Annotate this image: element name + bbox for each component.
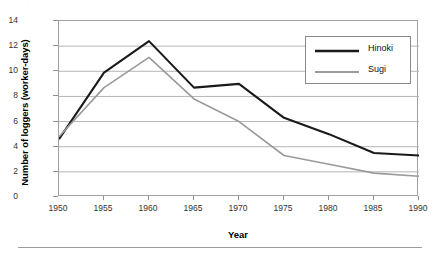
- x-tick-label: 1965: [173, 203, 213, 213]
- legend-swatch-sugi: [315, 70, 359, 74]
- x-tick-mark: [148, 196, 149, 200]
- x-tick-label: 1955: [83, 203, 123, 213]
- legend-label-hinoki: Hinoki: [368, 43, 393, 53]
- legend-label-sugi: Sugi: [368, 64, 386, 74]
- y-axis-tick-labels: 02468101214: [0, 0, 58, 216]
- y-tick-label: 8: [0, 91, 18, 99]
- x-tick-mark: [238, 196, 239, 200]
- y-tick-label: 6: [0, 117, 18, 125]
- x-tick-label: 1970: [218, 203, 258, 213]
- chart-figure: · · · Number of loggers (worker-days) 02…: [0, 0, 440, 256]
- legend-item-sugi: Sugi: [306, 61, 412, 81]
- x-tick-label: 1980: [308, 203, 348, 213]
- y-tick-mark: [53, 196, 58, 197]
- x-tick-mark: [283, 196, 284, 200]
- x-tick-mark: [373, 196, 374, 200]
- x-axis-tick-labels: 195019551960196519701975198019851990: [0, 199, 440, 215]
- x-tick-mark: [193, 196, 194, 200]
- x-tick-mark: [418, 196, 419, 200]
- x-tick-mark: [103, 196, 104, 200]
- x-tick-label: 1950: [38, 203, 78, 213]
- x-axis-title: Year: [58, 229, 418, 240]
- y-tick-label: 4: [0, 142, 18, 150]
- x-tick-label: 1960: [128, 203, 168, 213]
- y-tick-label: 14: [0, 16, 18, 24]
- x-tick-label: 1990: [398, 203, 438, 213]
- legend: Hinoki Sugi: [305, 36, 411, 84]
- x-tick-label: 1975: [263, 203, 303, 213]
- y-tick-label: 2: [0, 167, 18, 175]
- bottom-divider: [18, 247, 422, 248]
- x-tick-label: 1985: [353, 203, 393, 213]
- legend-swatch-hinoki: [315, 49, 359, 53]
- x-tick-mark: [328, 196, 329, 200]
- y-tick-label: 10: [0, 66, 18, 74]
- y-tick-label: 12: [0, 41, 18, 49]
- legend-item-hinoki: Hinoki: [306, 40, 412, 60]
